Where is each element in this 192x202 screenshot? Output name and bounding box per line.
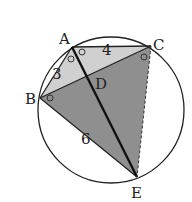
label-point-e: E <box>131 184 142 202</box>
geometry-figure: A C B D E 4 3 6 <box>0 0 192 202</box>
label-length-ab: 3 <box>52 65 62 83</box>
label-point-b: B <box>25 90 36 108</box>
label-length-ac: 4 <box>102 41 112 59</box>
label-point-a: A <box>58 30 70 48</box>
label-length-be: 6 <box>81 130 91 148</box>
label-point-d: D <box>95 75 107 93</box>
label-point-c: C <box>153 36 164 54</box>
